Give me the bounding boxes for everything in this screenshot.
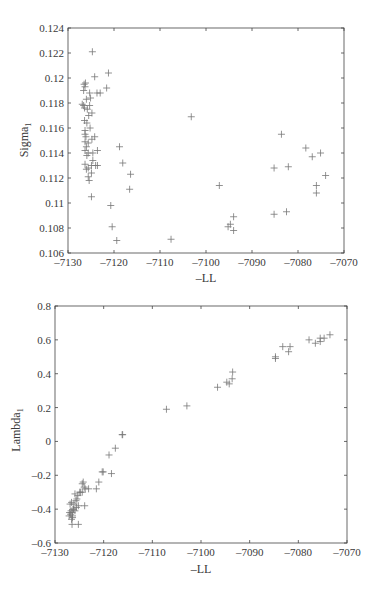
plot-frame — [55, 306, 347, 543]
plus-marker-icon — [127, 171, 134, 178]
plus-marker-icon — [216, 182, 223, 189]
x-ticks: –7130–7120–7110–7100–7090–7080–7070 — [40, 306, 361, 558]
y-tick-label: 0 — [46, 435, 52, 447]
x-tick-label: –7120 — [89, 546, 118, 558]
data-points — [66, 331, 334, 528]
x-tick-label: –7090 — [235, 546, 264, 558]
plus-marker-icon — [99, 468, 106, 475]
plus-marker-icon — [126, 186, 133, 193]
y-tick-label: 0.6 — [37, 334, 51, 346]
plus-marker-icon — [119, 431, 126, 438]
y-tick-label: 0.116 — [40, 122, 65, 134]
y-tick-label: 0.2 — [37, 402, 51, 414]
plus-marker-icon — [71, 490, 78, 497]
y-ticks: –0.6–0.4–0.200.20.40.60.8 — [31, 300, 347, 549]
plus-marker-icon — [94, 162, 101, 169]
plus-marker-icon — [82, 80, 89, 87]
plus-marker-icon — [313, 182, 320, 189]
plus-marker-icon — [105, 70, 112, 77]
plus-marker-icon — [317, 338, 324, 345]
y-tick-label: 0.118 — [40, 97, 65, 109]
plus-marker-icon — [271, 211, 278, 218]
plus-marker-icon — [75, 521, 82, 528]
x-tick-label: –7080 — [284, 546, 313, 558]
x-tick-label: –7080 — [283, 256, 312, 268]
plus-marker-icon — [88, 170, 95, 177]
plus-marker-icon — [271, 165, 278, 172]
plus-marker-icon — [88, 193, 95, 200]
plus-marker-icon — [113, 237, 120, 244]
plus-marker-icon — [309, 153, 316, 160]
plus-marker-icon — [272, 355, 279, 362]
plus-marker-icon — [112, 445, 119, 452]
plus-marker-icon — [317, 150, 324, 157]
plus-marker-icon — [106, 451, 113, 458]
plus-marker-icon — [230, 227, 237, 234]
plus-marker-icon — [322, 172, 329, 179]
y-axis-label: Lambda1 — [9, 408, 25, 451]
y-tick-label: –0.2 — [31, 469, 51, 481]
plus-marker-icon — [79, 480, 86, 487]
y-tick-label: 0.12 — [45, 72, 64, 84]
plus-marker-icon — [86, 90, 93, 97]
plus-marker-icon — [312, 340, 319, 347]
plus-marker-icon — [67, 501, 74, 508]
plus-marker-icon — [89, 48, 96, 55]
y-tick-label: 0.8 — [37, 300, 51, 312]
plus-marker-icon — [80, 87, 87, 94]
plus-marker-icon — [81, 502, 88, 509]
plus-marker-icon — [326, 331, 333, 338]
plot-frame — [68, 28, 344, 253]
y-tick-label: 0.4 — [37, 368, 51, 380]
plus-marker-icon — [183, 402, 190, 409]
plus-marker-icon — [109, 223, 116, 230]
plus-marker-icon — [313, 190, 320, 197]
plus-marker-icon — [119, 160, 126, 167]
plus-marker-icon — [82, 161, 89, 168]
plus-marker-icon — [93, 485, 100, 492]
sigma-scatter-chart: –7130–7120–7110–7100–7090–7080–7070 0.10… — [0, 0, 376, 295]
y-tick-label: 0.112 — [40, 172, 64, 184]
plus-marker-icon — [95, 479, 102, 486]
plus-marker-icon — [285, 348, 292, 355]
plus-marker-icon — [83, 143, 90, 150]
plus-marker-icon — [214, 384, 221, 391]
plus-marker-icon — [82, 485, 89, 492]
plus-marker-icon — [229, 375, 236, 382]
plot-area: –7130–7120–7110–7100–7090–7080–7070 0.10… — [39, 22, 358, 268]
x-tick-label: –7110 — [138, 546, 167, 558]
plus-marker-icon — [73, 495, 80, 502]
plus-marker-icon — [287, 343, 294, 350]
plus-marker-icon — [107, 202, 114, 209]
plus-marker-icon — [86, 177, 93, 184]
plus-marker-icon — [80, 479, 87, 486]
plus-marker-icon — [302, 145, 309, 152]
plus-marker-icon — [230, 213, 237, 220]
data-points — [79, 48, 329, 244]
x-ticks: –7130–7120–7110–7100–7090–7080–7070 — [53, 28, 358, 268]
plus-marker-icon — [188, 113, 195, 120]
plus-marker-icon — [81, 484, 88, 491]
y-axis-label: Sigma1 — [17, 123, 33, 158]
plus-marker-icon — [168, 236, 175, 243]
plus-marker-icon — [85, 173, 92, 180]
plus-marker-icon — [82, 138, 89, 145]
y-tick-label: –0.4 — [31, 503, 52, 515]
plus-marker-icon — [87, 95, 94, 102]
plus-marker-icon — [278, 131, 285, 138]
plus-marker-icon — [83, 96, 90, 103]
plus-marker-icon — [85, 140, 92, 147]
plus-marker-icon — [283, 208, 290, 215]
plus-marker-icon — [91, 73, 98, 80]
y-tick-label: 0.106 — [39, 247, 64, 259]
x-axis-label: –LL — [190, 562, 212, 576]
x-tick-label: –7070 — [332, 546, 361, 558]
x-tick-label: –7100 — [186, 546, 215, 558]
lambda-scatter-chart: –7130–7120–7110–7100–7090–7080–7070 –0.6… — [0, 290, 376, 594]
y-tick-label: 0.122 — [39, 47, 64, 59]
plus-marker-icon — [116, 143, 123, 150]
x-tick-label: –7070 — [329, 256, 358, 268]
y-tick-label: 0.11 — [45, 197, 64, 209]
x-tick-label: –7090 — [237, 256, 266, 268]
x-tick-label: –7110 — [145, 256, 174, 268]
